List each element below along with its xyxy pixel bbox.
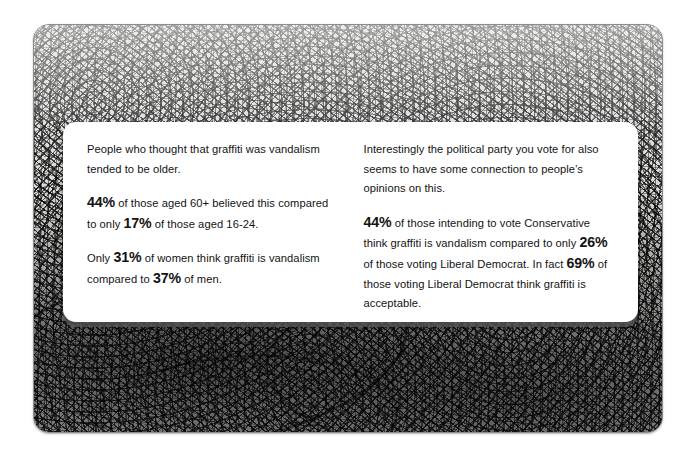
body-text: of those aged 16-24. — [152, 218, 259, 230]
paragraph-politics-stats: 44% of those intending to vote Conservat… — [364, 213, 613, 314]
percentage-value: 37% — [153, 270, 181, 286]
right-column: Interestingly the political party you vo… — [364, 140, 613, 308]
percentage-value: 17% — [123, 215, 151, 231]
body-text: Interestingly the political party you vo… — [364, 143, 599, 194]
percentage-value: 31% — [113, 249, 141, 265]
paragraph-age-intro: People who thought that graffiti was van… — [87, 140, 336, 179]
body-text: People who thought that graffiti was van… — [87, 143, 320, 175]
left-column: People who thought that graffiti was van… — [87, 140, 336, 308]
poster-page: People who thought that graffiti was van… — [0, 0, 696, 458]
statistics-card: People who thought that graffiti was van… — [63, 122, 638, 322]
paragraph-age-stats: 44% of those aged 60+ believed this comp… — [87, 193, 336, 234]
percentage-value: 26% — [579, 234, 607, 250]
percentage-value: 69% — [566, 255, 594, 271]
body-text: of men. — [181, 273, 222, 285]
body-text: Only — [87, 252, 113, 264]
percentage-value: 44% — [364, 214, 392, 230]
body-text: of those voting Liberal Democrat. In fac… — [364, 258, 567, 270]
percentage-value: 44% — [87, 194, 115, 210]
body-text: of those intending to vote Conservative … — [364, 217, 591, 250]
paragraph-politics-intro: Interestingly the political party you vo… — [364, 140, 613, 199]
paragraph-gender-stats: Only 31% of women think graffiti is vand… — [87, 248, 336, 289]
